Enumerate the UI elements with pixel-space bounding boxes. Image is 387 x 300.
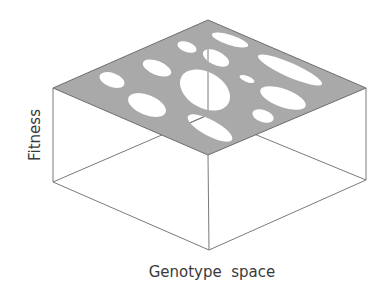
fitness-plane (53, 20, 366, 155)
y-axis-label: Fitness (26, 109, 44, 161)
x-axis-label: Genotype space (149, 263, 276, 281)
box-front-left-bottom-edge (53, 182, 209, 250)
landscape-box-svg (0, 0, 387, 300)
fitness-landscape-diagram: Fitness Genotype space (0, 0, 387, 300)
box-front-right-bottom-edge (209, 180, 366, 250)
box-front-vertical-edge (208, 155, 209, 250)
